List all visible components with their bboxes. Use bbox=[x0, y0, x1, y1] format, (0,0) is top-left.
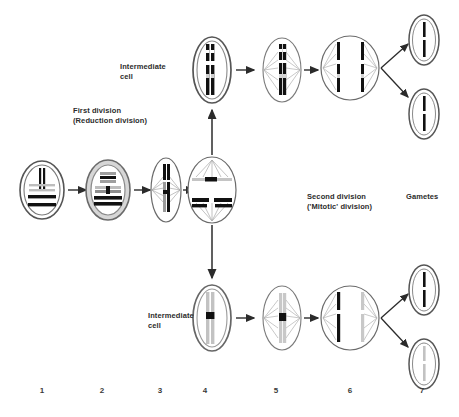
gamete-bottom-1 bbox=[409, 265, 439, 315]
fork-bottom-lower bbox=[381, 318, 408, 347]
label-gametes: Gametes bbox=[406, 192, 438, 202]
stage-number-6: 6 bbox=[340, 386, 360, 395]
cell-stage-2 bbox=[86, 160, 130, 220]
fork-top-lower bbox=[381, 68, 408, 97]
stage-number-2: 2 bbox=[92, 386, 112, 395]
meiosis-diagram: First division (Reduction division) Inte… bbox=[0, 0, 459, 417]
cell-stage-5-top bbox=[263, 38, 301, 102]
stage-number-3: 3 bbox=[150, 386, 170, 395]
stage-number-7: 7 bbox=[412, 386, 432, 395]
gamete-top-1 bbox=[409, 15, 439, 65]
diagram-canvas bbox=[0, 0, 459, 417]
cell-intermediate-top bbox=[193, 37, 231, 103]
fork-top-upper bbox=[381, 44, 408, 68]
label-first-division: First division (Reduction division) bbox=[73, 106, 147, 126]
cell-stage-5-bottom bbox=[263, 286, 301, 350]
cell-stage-4 bbox=[188, 157, 236, 223]
label-intermediate-cell-top: Intermediate cell bbox=[120, 62, 166, 82]
cell-stage-6-top bbox=[321, 36, 379, 100]
label-intermediate-cell-bottom: Intermediate cell bbox=[148, 311, 194, 331]
cell-stage-1 bbox=[20, 161, 64, 219]
stage-number-4: 4 bbox=[195, 386, 215, 395]
gamete-top-2 bbox=[409, 89, 439, 139]
fork-bottom-upper bbox=[381, 294, 408, 318]
cell-intermediate-bottom bbox=[193, 285, 231, 351]
stage-number-1: 1 bbox=[32, 386, 52, 395]
cell-stage-3 bbox=[151, 158, 181, 222]
stage-number-5: 5 bbox=[266, 386, 286, 395]
label-second-division: Second division ('Mitotic' division) bbox=[307, 192, 372, 212]
gamete-bottom-2 bbox=[409, 339, 439, 389]
cell-stage-6-bottom bbox=[321, 286, 379, 350]
